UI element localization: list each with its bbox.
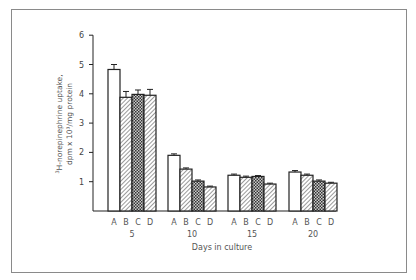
bar-A-day-10 <box>168 155 180 211</box>
bar-label: D <box>267 218 273 227</box>
bar-label: D <box>147 218 153 227</box>
y-tick-label: 2 <box>79 148 84 157</box>
bar-label: D <box>207 218 213 227</box>
bar-A-day-20 <box>289 172 301 211</box>
y-tick-label: 4 <box>79 90 84 99</box>
y-axis-title-line2: dpm x 10³/mg protein <box>65 83 74 165</box>
bar-label: A <box>171 218 177 227</box>
bar-D-day-20 <box>325 183 337 211</box>
bar-label: D <box>328 218 334 227</box>
labels: ABCD5ABCD10ABCD15ABCD20Days in culture3H… <box>54 74 334 252</box>
x-axis-title: Days in culture <box>192 243 252 252</box>
bar-label: C <box>316 218 322 227</box>
category-label: 5 <box>129 230 134 239</box>
bar-label: A <box>111 218 117 227</box>
bar-label: B <box>243 218 249 227</box>
bar-label: A <box>231 218 237 227</box>
bar-D-day-15 <box>264 184 276 211</box>
bar-C-day-15 <box>252 176 264 211</box>
bar-B-day-15 <box>240 177 252 211</box>
bar-chart: 123456 ABCD5ABCD10ABCD15ABCD20Days in cu… <box>0 0 416 280</box>
bar-label: C <box>255 218 261 227</box>
y-tick-label: 3 <box>79 119 84 128</box>
y-axis-title: 3H-norepinephrine uptake,dpm x 10³/mg pr… <box>54 74 74 173</box>
category-label: 20 <box>308 230 318 239</box>
bars <box>108 65 337 212</box>
category-label: 15 <box>247 230 257 239</box>
bar-A-day-15 <box>228 175 240 211</box>
category-label: 10 <box>187 230 197 239</box>
bar-D-day-10 <box>204 187 216 211</box>
bar-label: B <box>123 218 129 227</box>
bar-B-day-10 <box>180 169 192 211</box>
y-tick-label: 6 <box>79 31 84 40</box>
bar-C-day-5 <box>132 94 144 211</box>
bar-C-day-20 <box>313 181 325 211</box>
bar-label: C <box>195 218 201 227</box>
bar-B-day-20 <box>301 175 313 211</box>
bar-label: B <box>304 218 310 227</box>
y-tick-label: 5 <box>79 61 84 70</box>
y-axis-title-line1: 3H-norepinephrine uptake, <box>54 74 64 173</box>
bar-C-day-10 <box>192 181 204 211</box>
bar-label: C <box>135 218 141 227</box>
y-tick-label: 1 <box>79 178 84 187</box>
bar-B-day-5 <box>120 97 132 211</box>
bar-D-day-5 <box>144 95 156 211</box>
bar-A-day-5 <box>108 69 120 211</box>
bar-label: A <box>292 218 298 227</box>
bar-label: B <box>183 218 189 227</box>
